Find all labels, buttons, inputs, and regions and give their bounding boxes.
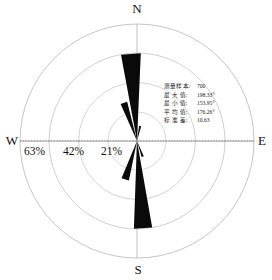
petal-south-major bbox=[121, 53, 141, 141]
rose-diagram-figure: N S W E 63% 42% 21% 测量样本: 700 最 大 值: 198… bbox=[0, 0, 272, 280]
petal-nnw-medium bbox=[122, 141, 138, 181]
stat-key: 测量样本: bbox=[164, 82, 197, 91]
petal-north-major bbox=[134, 141, 152, 229]
stat-value: 198.33° bbox=[197, 91, 238, 100]
stat-key: 最 大 值: bbox=[164, 91, 197, 100]
radial-tick-label-63: 63% bbox=[24, 146, 45, 158]
stat-key: 平 均 值: bbox=[164, 108, 197, 117]
stat-value: 10.63 bbox=[197, 116, 238, 125]
rose-diagram-canvas bbox=[0, 0, 272, 280]
radial-tick-label-21: 21% bbox=[101, 146, 122, 158]
statistics-annotation-box: 测量样本: 700 最 大 值: 198.33° 最 小 值: 153.95° … bbox=[164, 82, 238, 125]
stat-row: 平 均 值: 176.26° bbox=[164, 108, 238, 117]
compass-label-west: W bbox=[4, 134, 20, 147]
stat-row: 测量样本: 700 bbox=[164, 82, 238, 91]
stat-key: 标 准 差: bbox=[164, 116, 197, 125]
compass-label-north: N bbox=[129, 2, 145, 15]
petal-ssw-small bbox=[137, 126, 141, 141]
stat-row: 最 小 值: 153.95° bbox=[164, 99, 238, 108]
stat-key: 最 小 值: bbox=[164, 99, 197, 108]
stat-row: 标 准 差: 10.63 bbox=[164, 116, 238, 125]
radial-tick-label-42: 42% bbox=[63, 146, 84, 158]
stat-value: 153.95° bbox=[197, 99, 238, 108]
stat-row: 最 大 值: 198.33° bbox=[164, 91, 238, 100]
stat-value: 700 bbox=[197, 82, 238, 91]
stat-value: 176.26° bbox=[197, 108, 238, 117]
compass-label-east: E bbox=[254, 134, 270, 147]
compass-label-south: S bbox=[130, 263, 146, 276]
